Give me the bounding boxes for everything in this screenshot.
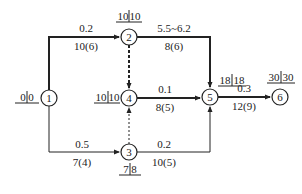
edge-2-5-bottom: 8(6) (165, 40, 184, 53)
node-6-time-right: 30 (283, 71, 295, 83)
node-4-times: 10 10 (94, 91, 120, 103)
node-5: 5 (202, 89, 218, 105)
node-4: 4 (121, 90, 137, 106)
node-2-time-left: 10 (118, 10, 130, 22)
node-6-times: 30 30 (267, 71, 295, 83)
node-5-time-right: 18 (234, 74, 246, 86)
node-3-label: 3 (126, 146, 132, 158)
node-2-time-right: 10 (130, 10, 142, 22)
node-3-time-left: 7 (123, 163, 129, 175)
edge-3-5-bottom: 10(5) (152, 156, 176, 169)
node-4-time-right: 10 (109, 91, 121, 103)
edge-1-2-bottom: 10(6) (74, 40, 98, 53)
edge-2-5-top: 5.5~6.2 (157, 22, 190, 34)
node-6-label: 6 (277, 91, 283, 103)
node-5-times: 18 18 (218, 74, 246, 86)
node-4-time-left: 10 (96, 91, 108, 103)
node-6-time-left: 30 (269, 71, 281, 83)
node-1-label: 1 (46, 92, 52, 104)
edge-5-6: 0.3 12(9) (218, 82, 270, 113)
node-1-time-left: 0 (20, 91, 26, 103)
edge-5-6-bottom: 12(9) (232, 100, 256, 113)
node-2: 2 (121, 29, 137, 45)
node-3-time-right: 8 (131, 163, 137, 175)
edge-3-5-top: 0.2 (157, 138, 171, 150)
edge-3-5: 0.2 10(5) (137, 107, 210, 169)
edge-4-5: 0.1 8(5) (137, 83, 200, 114)
node-5-time-left: 18 (220, 74, 232, 86)
edge-1-3-bottom: 7(4) (73, 156, 92, 169)
node-3-times: 7 8 (119, 163, 141, 175)
node-1: 1 (41, 90, 57, 106)
edge-2-5: 5.5~6.2 8(6) (137, 22, 210, 87)
node-1-time-right: 0 (28, 91, 34, 103)
edge-4-5-bottom: 8(5) (156, 101, 175, 114)
node-3: 3 (121, 144, 137, 160)
node-1-times: 0 0 (15, 91, 39, 103)
edge-1-3: 0.5 7(4) (49, 106, 119, 169)
node-2-times: 10 10 (116, 10, 142, 22)
node-5-label: 5 (207, 91, 213, 103)
edge-1-2: 0.2 10(6) (49, 22, 119, 90)
node-4-label: 4 (126, 92, 132, 104)
node-2-label: 2 (126, 31, 132, 43)
node-6: 6 (272, 89, 288, 105)
edge-4-5-top: 0.1 (158, 83, 172, 95)
edge-1-2-top: 0.2 (79, 22, 93, 34)
edge-1-3-top: 0.5 (75, 138, 89, 150)
network-diagram: 0.2 10(6) 0.5 7(4) 5.5~6.2 8(6) 0.1 8(5)… (0, 0, 302, 194)
